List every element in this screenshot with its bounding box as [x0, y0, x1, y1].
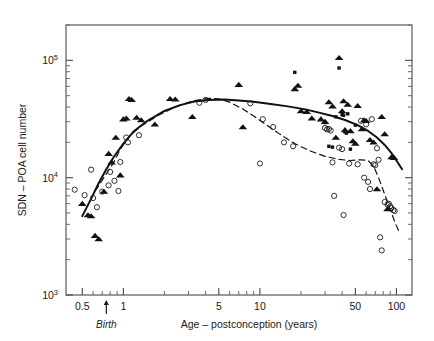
data-point-filled-triangle	[294, 83, 303, 88]
data-point-open-circle	[330, 160, 335, 165]
data-point-open-circle	[341, 212, 346, 217]
y-tick-label: 105	[42, 53, 58, 67]
data-point-filled-triangle	[111, 135, 120, 140]
data-point-open-circle	[355, 162, 360, 167]
data-point-filled-triangle	[338, 108, 347, 113]
data-point-filled-triangle	[380, 131, 389, 136]
data-point-filled-triangle	[234, 82, 243, 87]
data-point-filled-triangle	[377, 114, 386, 119]
data-point-open-circle	[376, 157, 381, 162]
data-point-open-circle	[366, 179, 371, 184]
data-point-open-circle	[379, 248, 384, 253]
data-point-filled-triangle	[373, 186, 382, 191]
chart-figure: 1051041030.5151050100 Birth Age – postco…	[0, 0, 434, 341]
data-point-open-circle	[367, 186, 372, 191]
data-point-filled-triangle	[353, 103, 362, 108]
data-point-filled-triangle	[239, 124, 248, 129]
data-point-open-circle	[88, 167, 93, 172]
data-point-filled-square	[293, 71, 296, 74]
data-point-filled-square	[349, 147, 352, 150]
data-point-filled-square	[354, 123, 357, 126]
data-point-filled-square	[346, 112, 349, 115]
data-point-open-circle	[108, 169, 113, 174]
solid-fit-curve	[82, 100, 402, 217]
data-point-filled-triangle	[332, 135, 341, 140]
data-point-open-circle	[373, 162, 378, 167]
data-point-open-circle	[290, 144, 295, 149]
data-point-open-circle	[136, 133, 141, 138]
data-point-filled-square	[331, 145, 334, 148]
data-point-open-circle	[94, 205, 99, 210]
data-points	[72, 55, 398, 253]
data-point-open-circle	[362, 175, 367, 180]
fit-curves	[82, 98, 402, 231]
data-point-filled-triangle	[188, 114, 197, 119]
sdn-poa-scatter-plot: 1051041030.5151050100 Birth Age – postco…	[0, 0, 434, 341]
data-point-open-circle	[392, 208, 397, 213]
data-point-filled-triangle	[151, 121, 160, 126]
data-point-filled-square	[334, 115, 337, 118]
data-point-filled-triangle	[325, 99, 334, 104]
data-point-open-circle	[116, 188, 121, 193]
data-point-open-circle	[340, 147, 345, 152]
x-tick-label: 100	[388, 300, 406, 312]
data-point-filled-square	[327, 145, 330, 148]
data-point-open-circle	[369, 117, 374, 122]
birth-annotation: Birth	[96, 300, 117, 330]
data-point-filled-square	[323, 121, 326, 124]
data-point-open-circle	[82, 193, 87, 198]
data-point-filled-triangle	[78, 201, 87, 206]
y-axis-title: SDN – POA cell number	[16, 103, 28, 216]
data-point-open-circle	[112, 178, 117, 183]
data-point-filled-triangle	[104, 151, 113, 156]
data-point-filled-square	[337, 66, 340, 69]
data-point-filled-triangle	[339, 98, 348, 103]
x-tick-label: 10	[254, 300, 266, 312]
data-point-filled-triangle	[308, 116, 317, 121]
x-axis-title: Age – postconception (years)	[181, 318, 318, 330]
data-point-open-circle	[257, 161, 262, 166]
data-point-open-circle	[260, 117, 265, 122]
x-tick-label: 0.5	[75, 300, 90, 312]
x-tick-label: 50	[349, 300, 361, 312]
data-point-open-circle	[281, 140, 286, 145]
data-point-open-circle	[271, 124, 276, 129]
data-point-filled-square	[345, 131, 348, 134]
data-point-open-circle	[374, 146, 379, 151]
data-point-open-circle	[72, 187, 77, 192]
data-point-open-circle	[125, 140, 130, 145]
data-point-open-circle	[332, 193, 337, 198]
birth-label: Birth	[96, 319, 117, 330]
data-point-open-circle	[336, 145, 341, 150]
data-point-open-circle	[106, 183, 111, 188]
x-tick-label: 1	[120, 300, 126, 312]
x-tick-label: 5	[216, 300, 222, 312]
data-point-open-circle	[118, 159, 123, 164]
data-point-filled-triangle	[116, 172, 125, 177]
y-tick-label: 103	[42, 288, 58, 302]
data-point-open-circle	[378, 235, 383, 240]
data-point-filled-triangle	[335, 55, 344, 60]
tick-labels: 1051041030.5151050100	[42, 53, 405, 312]
data-point-filled-square	[342, 114, 345, 117]
data-point-open-circle	[346, 161, 351, 166]
x-axis-ticks	[82, 288, 396, 295]
y-tick-label: 104	[42, 170, 58, 184]
